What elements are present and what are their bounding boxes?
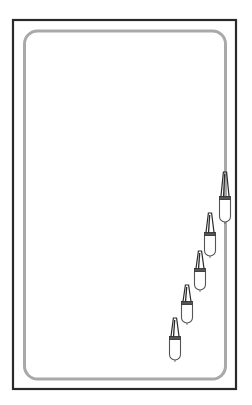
pendant-collar [182, 302, 193, 306]
diagram-canvas [0, 0, 252, 405]
pendant-1 [220, 172, 231, 224]
pendant-collar [170, 337, 181, 341]
pendant-neck-shade [209, 215, 210, 233]
inner-track [25, 31, 226, 379]
pendant-bulb [220, 200, 231, 222]
outer-frame [13, 20, 236, 389]
pendant-bulb [195, 272, 206, 290]
pendant-5 [170, 318, 181, 362]
pendant-neck-shade [174, 320, 175, 337]
pendant-4 [182, 285, 193, 325]
pendant-3 [195, 251, 206, 292]
pendant-collar [220, 197, 231, 201]
pendant-neck-shade [199, 253, 200, 269]
pendant-bulb [170, 340, 181, 360]
pendant-bulb [205, 236, 216, 256]
pendant-collar [195, 269, 206, 273]
pendant-bulb [182, 305, 193, 323]
pendant-neck-shade [186, 287, 187, 302]
pendant-collar [205, 233, 216, 237]
pendant-2 [205, 213, 216, 258]
pendant-group [170, 172, 231, 362]
